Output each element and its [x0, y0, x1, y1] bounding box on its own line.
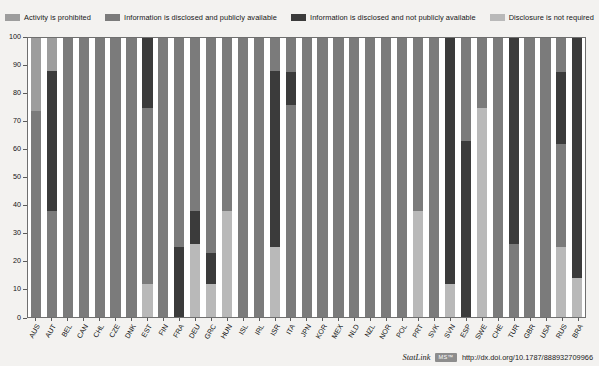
stacked-bar[interactable] [524, 38, 534, 317]
x-tick-mark [386, 318, 387, 321]
stacked-bar[interactable] [540, 38, 550, 317]
stacked-bar[interactable] [349, 38, 359, 317]
bar-segment-not_required [413, 211, 423, 317]
bar-slot-EST [139, 38, 155, 317]
x-tick-label: ESP [459, 323, 473, 339]
x-tick-mark [99, 318, 100, 321]
bar-segment-disclosed_not_public [174, 247, 184, 317]
x-tick-mark [290, 318, 291, 321]
x-tick-label: NOR [378, 323, 393, 341]
x-tick-label: NLD [347, 323, 361, 339]
stacked-bar[interactable] [270, 38, 280, 317]
bar-segment-disclosed_public [270, 38, 280, 71]
bar-segment-disclosed_not_public [47, 71, 57, 211]
bar-slot-GRC [203, 38, 219, 317]
stacked-bar[interactable] [63, 38, 73, 317]
bar-segment-not_required [222, 211, 232, 317]
legend-item-label: Disclosure is not required [509, 13, 594, 22]
y-tick-label: 60 [13, 144, 21, 154]
bar-segment-not_required [572, 278, 582, 317]
bar-segment-disclosed_public [142, 108, 152, 284]
x-tick-label: JPN [300, 323, 314, 339]
bar-slot-ISL [235, 38, 251, 317]
stacked-bar[interactable] [302, 38, 312, 317]
stacked-bar[interactable] [126, 38, 136, 317]
stacked-bar[interactable] [95, 38, 105, 317]
y-tick-label: 0 [17, 313, 21, 323]
stacked-bar[interactable] [397, 38, 407, 317]
y-tick-label: 50 [13, 172, 21, 182]
bar-segment-disclosed_public [477, 38, 487, 108]
stacked-bar[interactable] [429, 38, 439, 317]
stacked-bar[interactable] [461, 38, 471, 317]
stacked-bar[interactable] [286, 38, 296, 317]
plot-area [27, 37, 586, 318]
stacked-bar[interactable] [509, 38, 519, 317]
bar-slot-ESP [458, 38, 474, 317]
x-tick-mark [514, 318, 515, 321]
legend-item-label: Information is disclosed and publicly av… [124, 13, 277, 22]
bar-segment-not_required [556, 247, 566, 317]
bar-segment-disclosed_public [254, 38, 264, 317]
bar-slot-POL [394, 38, 410, 317]
stacked-bar[interactable] [158, 38, 168, 317]
x-tick-mark [67, 318, 68, 321]
bar-segment-disclosed_public [47, 211, 57, 317]
bar-segment-disclosed_public [222, 38, 232, 211]
x-tick-mark [179, 318, 180, 321]
x-tick-mark [370, 318, 371, 321]
bar-segment-disclosed_public [126, 38, 136, 317]
x-tick-mark [562, 318, 563, 321]
stacked-bar[interactable] [222, 38, 232, 317]
stacked-bar[interactable] [31, 38, 41, 317]
stacked-bar[interactable] [365, 38, 375, 317]
stacked-bar[interactable] [556, 38, 566, 317]
x-tick-label: PRT [411, 323, 425, 339]
stacked-bar[interactable] [79, 38, 89, 317]
stacked-bar[interactable] [333, 38, 343, 317]
x-tick-mark [131, 318, 132, 321]
x-tick-label: EST [140, 323, 154, 339]
x-tick-mark [354, 318, 355, 321]
bar-segment-disclosed_public [95, 38, 105, 317]
stacked-bar[interactable] [47, 38, 57, 317]
stacked-bar[interactable] [413, 38, 423, 317]
stacked-bar[interactable] [110, 38, 120, 317]
x-tick-mark [227, 318, 228, 321]
y-tick-label: 70 [13, 116, 21, 126]
stacked-bar[interactable] [445, 38, 455, 317]
legend-swatch-icon [490, 14, 505, 21]
stacked-bar[interactable] [493, 38, 503, 317]
bar-slot-SVK [426, 38, 442, 317]
bar-segment-disclosed_not_public [190, 211, 200, 244]
x-tick-mark [578, 318, 579, 321]
bar-slot-CZE [108, 38, 124, 317]
doi-link[interactable]: http://dx.doi.org/10.1787/888932709966 [462, 353, 593, 362]
x-tick-label: CAN [75, 323, 89, 340]
bar-segment-disclosed_public [286, 105, 296, 317]
x-tick-mark [498, 318, 499, 321]
x-tick-label: ITA [285, 323, 297, 336]
y-tick-label: 40 [13, 200, 21, 210]
bar-segment-prohibited [47, 38, 57, 71]
stacked-bar[interactable] [174, 38, 184, 317]
stacked-bar[interactable] [206, 38, 216, 317]
stacked-bar[interactable] [254, 38, 264, 317]
x-tick-label: FRA [172, 323, 186, 339]
x-tick-label: MEX [331, 323, 346, 340]
stacked-bar[interactable] [238, 38, 248, 317]
x-tick-mark [115, 318, 116, 321]
bar-segment-disclosed_not_public [572, 38, 582, 278]
x-tick-label: TUR [507, 323, 521, 340]
stacked-bar[interactable] [477, 38, 487, 317]
stacked-bar[interactable] [572, 38, 582, 317]
x-tick-mark [195, 318, 196, 321]
bar-slot-NOR [378, 38, 394, 317]
stacked-bar[interactable] [190, 38, 200, 317]
stacked-bar[interactable] [142, 38, 152, 317]
y-tick-label: 80 [13, 88, 21, 98]
stacked-bar[interactable] [317, 38, 327, 317]
bar-slot-TUR [506, 38, 522, 317]
stacked-bar[interactable] [381, 38, 391, 317]
bar-segment-disclosed_not_public [556, 72, 566, 145]
